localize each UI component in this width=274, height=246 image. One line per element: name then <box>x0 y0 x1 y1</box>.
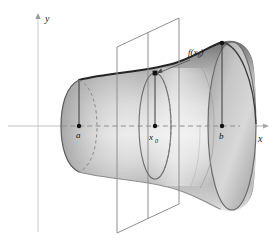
point-marker-x0-axis <box>153 124 157 128</box>
point-label-x0-subscript: 0 <box>155 138 158 144</box>
point-label-b: b <box>219 131 224 141</box>
y-axis-arrowhead <box>35 13 40 19</box>
x-axis-arrowhead <box>263 123 269 128</box>
point-marker-b <box>220 124 224 128</box>
point-marker-b-top <box>220 41 224 45</box>
point-label-x0: x <box>148 132 153 142</box>
solid-of-revolution-figure: y x <box>0 0 274 246</box>
f-x0-suffix: ) <box>200 47 204 57</box>
y-axis-label: y <box>44 13 50 24</box>
point-marker-a <box>77 124 81 128</box>
throat-highlight <box>150 68 210 186</box>
figure-container: y x <box>0 0 274 246</box>
f-x0-label: f(x0) <box>188 47 204 59</box>
point-marker-x0 <box>153 71 158 76</box>
point-label-a: a <box>76 130 81 140</box>
x-axis-label: x <box>257 133 263 144</box>
f-x0-prefix: f(x <box>188 47 198 57</box>
